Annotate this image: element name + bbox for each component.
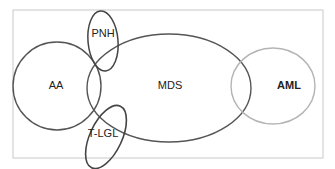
pnh-set-ellipse <box>85 10 120 72</box>
tlgl-label: T-LGL <box>88 128 119 139</box>
mds-label: MDS <box>158 80 182 91</box>
aa-label: AA <box>49 80 64 91</box>
aml-label: AML <box>277 80 301 91</box>
pnh-label: PNH <box>91 28 114 39</box>
venn-diagram: AA MDS AML PNH T-LGL <box>0 0 335 169</box>
aml-set-circle <box>231 48 315 124</box>
